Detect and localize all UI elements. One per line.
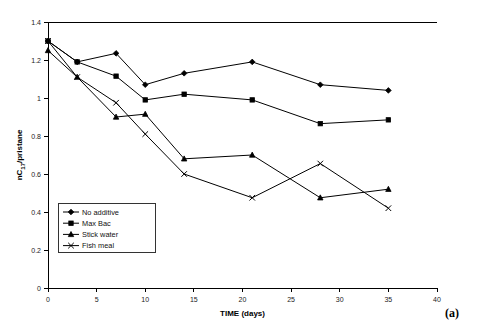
data-point — [113, 100, 119, 106]
data-point — [114, 74, 118, 78]
data-point — [386, 186, 391, 191]
series-no-additive — [45, 38, 391, 93]
x-tick-label: 5 — [95, 296, 99, 303]
series-line — [48, 51, 388, 198]
x-axis-title: TIME (days) — [220, 309, 265, 318]
y-axis-title: nC17/pristane — [15, 129, 26, 180]
y-tick-label: 1.2 — [31, 57, 41, 64]
legend-label: No additive — [82, 208, 119, 217]
legend-label: Max Bac — [82, 219, 111, 228]
panel-label: (a) — [445, 306, 459, 320]
series-stick-water — [45, 48, 391, 200]
data-point — [249, 195, 255, 201]
figure-panel-a: 00.20.40.60.811.21.40510152025303540TIME… — [0, 0, 481, 331]
data-point — [181, 71, 187, 77]
data-point — [249, 59, 255, 65]
data-point — [182, 92, 186, 96]
y-axis-ticks: 00.20.40.60.811.21.4 — [31, 19, 48, 292]
data-point — [318, 82, 324, 88]
legend-label: Fish meal — [82, 241, 114, 250]
data-point — [45, 48, 50, 53]
data-point — [143, 111, 148, 116]
series-fish-meal — [45, 38, 391, 211]
series-line — [48, 41, 388, 90]
y-tick-label: 0.8 — [31, 133, 41, 140]
data-point — [318, 121, 322, 125]
y-tick-label: 0.4 — [31, 209, 41, 216]
series-max-bac — [46, 39, 391, 126]
x-tick-label: 15 — [190, 296, 198, 303]
data-point — [250, 98, 254, 102]
chart-legend: No additiveMax BacStick waterFish meal — [58, 203, 155, 252]
x-axis-ticks: 0510152025303540 — [46, 288, 441, 303]
line-chart: 00.20.40.60.811.21.40510152025303540TIME… — [0, 0, 481, 331]
y-tick-label: 0.2 — [31, 247, 41, 254]
data-point — [75, 60, 79, 64]
x-tick-label: 30 — [336, 296, 344, 303]
x-tick-label: 40 — [433, 296, 441, 303]
y-axis-title-pre: nC — [15, 169, 24, 180]
legend-marker — [69, 221, 73, 225]
y-axis-title-post: /pristane — [15, 129, 24, 163]
y-tick-label: 0.6 — [31, 171, 41, 178]
data-point — [386, 88, 392, 94]
legend-label: Stick water — [82, 230, 119, 239]
y-tick-label: 1 — [37, 95, 41, 102]
data-point — [142, 131, 148, 137]
data-point — [143, 98, 147, 102]
y-tick-label: 0 — [37, 285, 41, 292]
x-tick-label: 25 — [287, 296, 295, 303]
data-point — [318, 161, 324, 167]
x-tick-label: 35 — [384, 296, 392, 303]
series-line — [48, 41, 388, 208]
y-tick-label: 1.4 — [31, 19, 41, 26]
x-tick-label: 0 — [46, 296, 50, 303]
x-tick-label: 20 — [239, 296, 247, 303]
x-tick-label: 10 — [141, 296, 149, 303]
series-line — [48, 41, 388, 124]
data-point — [386, 205, 392, 211]
data-point — [181, 171, 187, 177]
data-point — [386, 118, 390, 122]
